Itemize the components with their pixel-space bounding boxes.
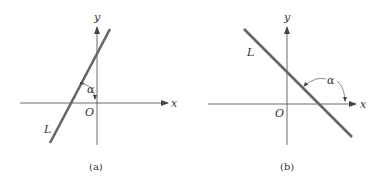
line-label: L <box>246 46 254 59</box>
y-label: y <box>283 11 291 24</box>
angle-label: α <box>87 83 95 96</box>
angle-label: α <box>327 74 335 87</box>
x-label: x <box>171 97 178 110</box>
caption: (b) <box>280 161 294 172</box>
caption: (a) <box>89 161 103 172</box>
x-label: x <box>360 98 367 111</box>
y-label: y <box>93 11 101 24</box>
panel-a: x y O L α (a) <box>20 11 178 172</box>
line-label: L <box>43 123 51 136</box>
origin-label: O <box>85 106 94 119</box>
panel-b: x y O L α (b) <box>208 11 367 172</box>
line-L <box>50 29 110 143</box>
figure: x y O L α (a) x y O L α (b) <box>0 0 384 188</box>
origin-label: O <box>275 107 284 120</box>
line-L <box>244 29 352 137</box>
